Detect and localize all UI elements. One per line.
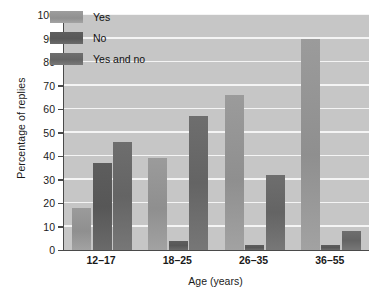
- y-axis-tick: 40: [0, 150, 63, 162]
- bar: [169, 241, 188, 250]
- bar: [113, 142, 132, 250]
- x-axis-tick-label: 12–17: [63, 254, 139, 266]
- bar: [301, 39, 320, 251]
- legend-label: No: [93, 29, 106, 48]
- legend-label: Yes: [93, 8, 110, 27]
- legend-swatch: [50, 32, 83, 44]
- x-axis-title: Age (years): [63, 275, 368, 287]
- bar: [189, 116, 208, 250]
- y-axis-tick: 10: [0, 221, 63, 233]
- legend-item: Yes: [50, 8, 185, 29]
- y-axis-tick-label: 70: [43, 80, 55, 92]
- bar: [225, 95, 244, 250]
- y-axis-tick: 60: [0, 103, 63, 115]
- bar: [321, 245, 340, 250]
- bar: [245, 245, 264, 250]
- legend-swatch: [50, 53, 83, 65]
- legend-item: Yes and no: [50, 50, 185, 71]
- y-axis-tick: 20: [0, 197, 63, 209]
- y-axis-tick-label: 60: [43, 103, 55, 115]
- y-axis-tick: 70: [0, 80, 63, 92]
- bar: [72, 208, 91, 250]
- legend-item: No: [50, 29, 185, 50]
- bar: [148, 158, 167, 250]
- y-axis-tick: 50: [0, 127, 63, 139]
- y-axis-tick-label: 40: [43, 150, 55, 162]
- bar-chart: Percentage of replies 010203040506070809…: [0, 0, 376, 295]
- legend: YesNoYes and no: [50, 8, 185, 71]
- bar: [93, 163, 112, 250]
- y-axis-tick-label: 0: [49, 244, 55, 256]
- bar: [342, 231, 361, 250]
- y-axis-tick: 30: [0, 174, 63, 186]
- y-axis-tick-label: 10: [43, 221, 55, 233]
- legend-label: Yes and no: [93, 50, 145, 69]
- y-axis-tick-label: 20: [43, 197, 55, 209]
- y-axis-tick-label: 30: [43, 174, 55, 186]
- bar: [266, 175, 285, 250]
- x-axis-tick-label: 36–55: [292, 254, 368, 266]
- x-axis-tick-label: 18–25: [139, 254, 215, 266]
- x-axis-tick-labels: 12–1718–2526–3536–55: [63, 254, 368, 272]
- y-axis-tick-label: 50: [43, 127, 55, 139]
- x-axis-tick-label: 26–35: [216, 254, 292, 266]
- y-axis-tick: 0: [0, 244, 63, 256]
- legend-swatch: [50, 11, 83, 23]
